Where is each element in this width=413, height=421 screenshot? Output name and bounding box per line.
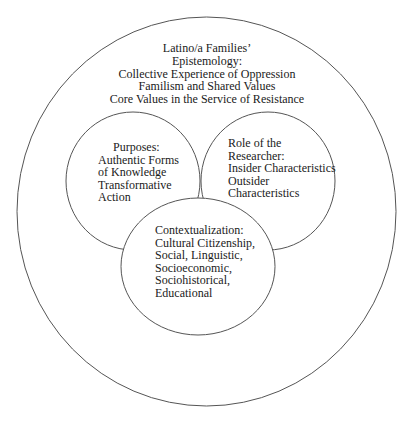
role-item-outsider-line-2: Characteristics: [228, 186, 300, 200]
purposes-item-line-4: Action: [98, 190, 131, 204]
outer-item-core-values: Core Values in the Service of Resistance: [110, 92, 304, 106]
outer-text-block: Latino/a Families’ Epistemology: Collect…: [110, 41, 304, 106]
outer-title-line-1: Latino/a Families’: [163, 41, 251, 55]
context-item-educational: Educational: [155, 286, 213, 300]
epistemology-diagram: Latino/a Families’ Epistemology: Collect…: [0, 0, 413, 421]
role-text-block: Role of the Researcher: Insider Characte…: [228, 136, 336, 200]
purposes-text-block: Purposes: Authentic Forms of Knowledge T…: [98, 140, 179, 204]
